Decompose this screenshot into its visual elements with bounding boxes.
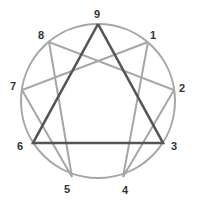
- inner-triangle: [33, 24, 163, 143]
- enneagram-figure: [0, 0, 199, 211]
- point-label-7: 7: [10, 81, 16, 92]
- point-label-8: 8: [38, 30, 44, 41]
- enneagram-diagram: 912345678: [0, 0, 199, 211]
- point-label-2: 2: [179, 83, 185, 94]
- point-label-9: 9: [94, 9, 100, 20]
- point-label-5: 5: [64, 184, 70, 195]
- point-label-4: 4: [122, 185, 128, 196]
- outer-circle: [21, 24, 175, 178]
- point-label-1: 1: [150, 30, 156, 41]
- point-label-6: 6: [17, 141, 23, 152]
- point-label-3: 3: [171, 141, 177, 152]
